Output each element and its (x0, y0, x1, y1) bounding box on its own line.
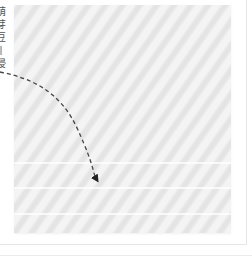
caption-char: 萌 (0, 6, 6, 19)
divider (0, 255, 252, 256)
caption-char: 浸 (0, 58, 6, 71)
image-band (14, 213, 231, 215)
caption-char: 丨 (0, 45, 6, 58)
image-band (14, 162, 231, 164)
caption-char: 豆 (0, 32, 6, 45)
caption-char: 芽 (0, 19, 6, 32)
image-placeholder (14, 5, 231, 233)
vertical-caption: 萌 芽 豆 丨 浸 (0, 6, 7, 71)
image-band (14, 187, 231, 189)
